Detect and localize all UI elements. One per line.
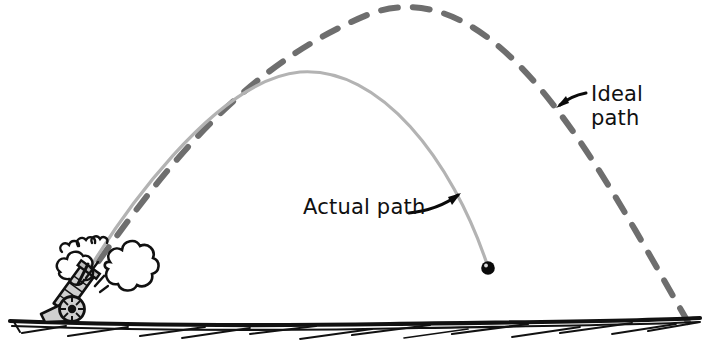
ideal-path-label-line1: Ideal [591,82,643,106]
actual-path-label: Actual path [303,196,425,220]
ideal-path-arrow [556,93,586,108]
projectile-ball-highlight [484,264,488,268]
diagram-canvas [0,0,707,359]
ideal-path-label: Ideal path [591,83,643,130]
ideal-path-curve [80,7,688,322]
smoke-puff-large [105,241,159,290]
projectile-diagram: Actual path Ideal path [0,0,707,359]
ground-line [10,318,700,339]
ideal-path-label-line2: path [591,107,643,131]
actual-path-curve [78,72,487,288]
projectile-ball [481,261,495,275]
